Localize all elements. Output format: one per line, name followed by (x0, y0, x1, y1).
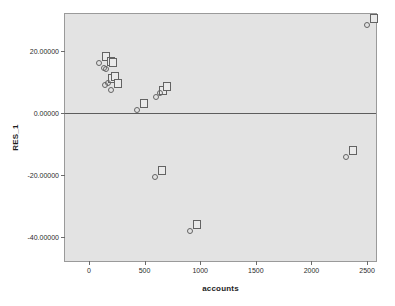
data-point-case-label (158, 166, 166, 175)
y-axis-tick (61, 237, 65, 238)
y-axis-tick (61, 175, 65, 176)
y-axis-tick-label: -40.00000 (27, 234, 59, 241)
x-axis-tick (367, 261, 368, 265)
data-point-case-label (349, 146, 357, 155)
data-point-case-label (114, 79, 122, 88)
data-point-case-label (370, 14, 378, 23)
data-point-case-label (193, 220, 201, 229)
x-axis-tick-label: 1000 (192, 267, 208, 274)
y-axis-tick-label: -20.00000 (27, 172, 59, 179)
x-axis-tick-label: 2500 (359, 267, 375, 274)
zero-reference-line (65, 113, 376, 114)
x-axis-tick-label: 500 (139, 267, 151, 274)
data-point-case-label (140, 99, 148, 108)
x-axis-tick-label: 1500 (248, 267, 264, 274)
y-axis-tick (61, 51, 65, 52)
x-axis-tick (311, 261, 312, 265)
x-axis-tick (89, 261, 90, 265)
y-axis-tick-label: 20.00000 (30, 47, 59, 54)
x-axis-tick (200, 261, 201, 265)
data-point-case-label (109, 58, 117, 67)
data-point-case-label (163, 82, 171, 91)
x-axis-tick-label: 2000 (304, 267, 320, 274)
y-axis-tick (61, 113, 65, 114)
y-axis-title: RES_1 (8, 13, 22, 262)
x-axis-title: accounts (64, 284, 377, 293)
plot-area: 20.000000.00000-20.00000-40.000000500100… (64, 13, 377, 262)
y-axis-tick-label: 0.00000 (34, 109, 59, 116)
scatterplot-chart: RES_1 20.000000.00000-20.00000-40.000000… (0, 0, 395, 306)
x-axis-tick (256, 261, 257, 265)
y-axis-title-label: RES_1 (11, 124, 20, 150)
x-axis-tick (145, 261, 146, 265)
x-axis-tick-label: 0 (87, 267, 91, 274)
plot-inner: 20.000000.00000-20.00000-40.000000500100… (65, 14, 376, 261)
